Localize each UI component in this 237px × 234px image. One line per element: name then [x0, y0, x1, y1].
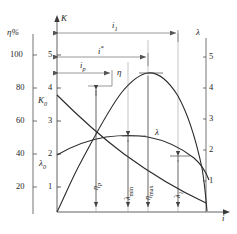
- inner-axis-label-K: K: [61, 14, 67, 23]
- curve-label-eta: η: [117, 68, 121, 77]
- dim-label-istar: i*: [98, 45, 104, 55]
- inner-k-axis: [54, 15, 61, 212]
- bottom-axis: [57, 209, 230, 214]
- left-axis: [33, 34, 37, 214]
- measure-label-lambda-min: λmin: [124, 187, 134, 200]
- measure-label-lambda-1: λ1: [174, 191, 184, 198]
- left-tick-40: 40: [16, 149, 25, 158]
- dim-arrow-ip: [59, 70, 112, 86]
- k-tick-2: 2: [48, 149, 52, 158]
- k-tick-3: 3: [48, 116, 52, 125]
- x-axis-label-i: i: [222, 214, 225, 223]
- dim-arrow-i1: [59, 30, 178, 42]
- left-tick-20: 20: [16, 182, 25, 191]
- lambda-tick-2: 2: [209, 145, 213, 154]
- right-axis-label-lambda: λ: [196, 28, 200, 37]
- curve-label-lambda0: λ0: [39, 159, 46, 170]
- curve-label-lambda: λ: [155, 128, 159, 137]
- k-tick-1: 1: [48, 182, 52, 191]
- k-tick-4: 4: [48, 83, 52, 92]
- lambda-tick-4: 4: [209, 83, 213, 92]
- figure-root: η% 100 80 60 40 20 K 5 4 3 2 1 λ 5 4 3 2…: [0, 0, 237, 234]
- chart-canvas: [0, 0, 237, 234]
- dim-label-ip: ip: [80, 61, 85, 72]
- lambda-tick-1: 1: [209, 176, 213, 185]
- station-lines: [96, 33, 178, 212]
- measure-label-eta-max: ηmax: [144, 185, 154, 200]
- lambda-tick-3: 3: [209, 114, 213, 123]
- measure-lambda-1: [170, 156, 190, 207]
- k-tick-5: 5: [48, 50, 52, 59]
- dim-label-i1: i1: [112, 21, 117, 32]
- left-tick-100: 100: [10, 50, 23, 59]
- left-tick-80: 80: [16, 83, 25, 92]
- left-axis-label: η%: [7, 28, 19, 37]
- lambda-tick-5: 5: [209, 52, 213, 61]
- curve-label-K0: K0: [38, 96, 47, 107]
- left-tick-60: 60: [16, 116, 25, 125]
- measure-label-eta-p: ηp: [92, 183, 102, 190]
- curve-lambda: [57, 136, 209, 181]
